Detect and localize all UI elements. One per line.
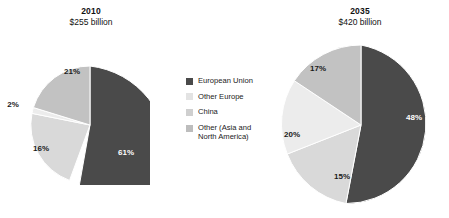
legend-item-china[interactable]: China: [186, 107, 253, 116]
chart-panel-2010: 2010 $255 billion 61% 16% 2% 21%: [0, 0, 182, 218]
legend-swatch-icon-other-asia-north-america: [186, 125, 193, 132]
chart-year-2010: 2010: [0, 6, 182, 17]
legend-item-other-asia-north-america[interactable]: Other (Asia and North America): [186, 123, 253, 141]
legend-label-european-union: European Union: [198, 76, 253, 85]
pie-slice-label-other-europe-2010: 16%: [33, 144, 49, 153]
pie-slice-label-other-asia-north-america-2010: 21%: [64, 67, 80, 76]
pie-slice-label-china-2010: 2%: [7, 100, 19, 109]
chart-year-2035: 2035: [271, 6, 449, 17]
legend-label-china: China: [198, 107, 218, 116]
chart-legend: European Union Other Europe China Other …: [186, 76, 253, 148]
pie-slice-label-other-asia-north-america-2035: 17%: [310, 64, 326, 73]
pie-slice-label-china-2035: 20%: [284, 130, 300, 139]
pie-2010: [30, 65, 150, 185]
chart-panel-2035: 2035 $420 billion 48% 15% 20% 17%: [271, 0, 449, 218]
chart-title-2010: 2010 $255 billion: [0, 6, 182, 27]
legend-swatch-icon-other-europe: [186, 93, 193, 100]
pie-slice-label-european-union-2035: 48%: [406, 113, 422, 122]
pie-slices-2010: [31, 66, 150, 185]
legend-item-european-union[interactable]: European Union: [186, 76, 253, 85]
legend-swatch-icon-european-union: [186, 78, 193, 85]
legend-item-other-europe[interactable]: Other Europe: [186, 92, 253, 101]
legend-label-other-europe: Other Europe: [198, 92, 244, 101]
pie-slice-label-other-europe-2035: 15%: [334, 172, 350, 181]
chart-title-2035: 2035 $420 billion: [271, 6, 449, 27]
pie-chart-figure: 2010 $255 billion 61% 16% 2% 21% Europea…: [0, 0, 449, 218]
pie-slice-label-european-union-2010: 61%: [118, 148, 134, 157]
chart-amount-2035: $420 billion: [271, 17, 449, 28]
legend-swatch-icon-china: [186, 109, 193, 116]
legend-label-other-asia-north-america: Other (Asia and North America): [198, 123, 251, 141]
chart-amount-2010: $255 billion: [0, 17, 182, 28]
pie-2035: [280, 44, 442, 206]
pie-slices-2035: [281, 45, 425, 204]
